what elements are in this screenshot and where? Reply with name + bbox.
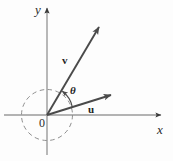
x-axis-label: x (157, 123, 163, 136)
vector-angle-figure: y x v u θ 0 (0, 0, 173, 161)
vector-u-label: u (88, 104, 94, 115)
y-axis-label: y (35, 3, 41, 16)
origin-label: 0 (39, 117, 45, 129)
angle-theta-label: θ (70, 85, 76, 96)
vector-v-label: v (62, 55, 68, 66)
figure-canvas (0, 0, 173, 161)
